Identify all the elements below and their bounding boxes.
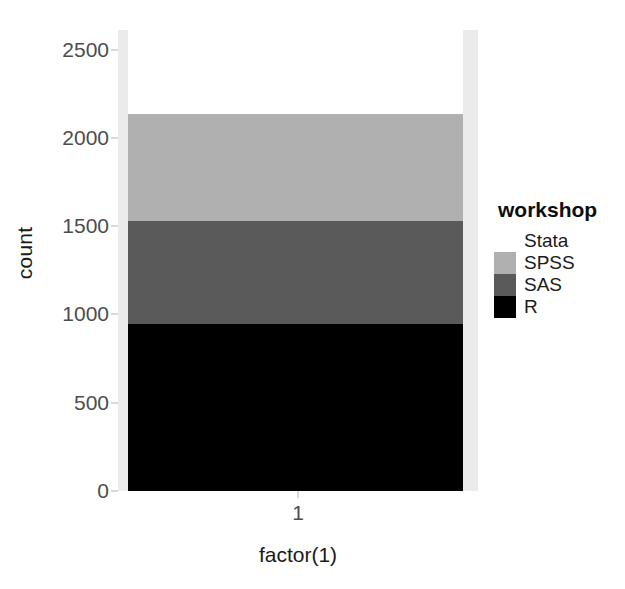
legend-item[interactable]: Stata <box>494 230 619 252</box>
y-tick-mark <box>111 49 118 50</box>
y-tick-mark <box>111 491 118 492</box>
plot-panel <box>118 30 478 491</box>
y-axis-ticks: 05001000150020002500 <box>40 0 118 589</box>
legend-item-label: SPSS <box>524 252 575 274</box>
y-tick-mark <box>111 226 118 227</box>
x-tick-mark <box>298 491 299 498</box>
y-tick-label: 2500 <box>62 38 109 62</box>
bar-stack <box>118 30 478 491</box>
x-axis-ticks: 1 <box>118 491 478 531</box>
y-tick-label: 0 <box>97 479 109 503</box>
y-tick-mark <box>111 137 118 138</box>
stacked-bar-chart: count 05001000150020002500 1 factor(1) w… <box>0 0 625 589</box>
y-tick-label: 500 <box>74 391 109 415</box>
legend-item-label: Stata <box>524 230 568 252</box>
bar-segment-sas <box>128 221 463 323</box>
bar-segment-spss <box>128 114 463 221</box>
y-tick-mark <box>111 314 118 315</box>
x-axis-title: factor(1) <box>118 543 478 567</box>
y-tick-label: 2000 <box>62 126 109 150</box>
legend-item[interactable]: SPSS <box>494 252 619 274</box>
legend-title: workshop <box>498 198 619 222</box>
y-axis-title-text: count <box>13 226 37 278</box>
legend-key-swatch <box>494 230 516 252</box>
y-axis-title: count <box>10 0 40 505</box>
legend-key-swatch <box>494 274 516 296</box>
legend-item[interactable]: SAS <box>494 274 619 296</box>
legend-items: StataSPSSSASR <box>494 230 619 318</box>
legend-item-label: R <box>524 296 538 318</box>
legend: workshop StataSPSSSASR <box>494 198 619 318</box>
y-tick-label: 1500 <box>62 214 109 238</box>
bar-segment-stata <box>128 30 463 114</box>
legend-key-swatch <box>494 252 516 274</box>
bar-segment-r <box>128 324 463 491</box>
y-tick-mark <box>111 402 118 403</box>
legend-key-swatch <box>494 296 516 318</box>
y-tick-label: 1000 <box>62 302 109 326</box>
legend-item[interactable]: R <box>494 296 619 318</box>
x-tick-label: 1 <box>292 501 304 525</box>
legend-item-label: SAS <box>524 274 562 296</box>
